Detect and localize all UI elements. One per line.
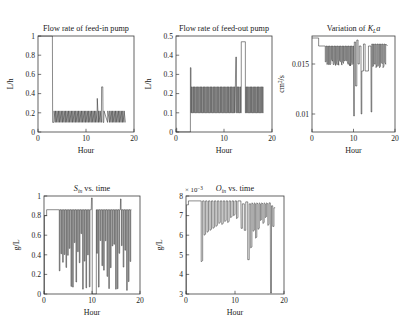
feed-in-pump-series xyxy=(38,36,125,122)
oin-vs-time-xtick-label: 0 xyxy=(184,296,188,305)
feed-out-pump-ytick-label: 0.3 xyxy=(164,70,174,79)
kla-variation-ylabel: cm2/s xyxy=(277,75,286,93)
sin-vs-time-xtick-label: 10 xyxy=(88,296,96,305)
feed-out-pump-xlabel: Hour xyxy=(216,146,233,155)
feed-in-pump-title: Flow rate of feed-in pump xyxy=(43,24,129,33)
feed-out-pump-series xyxy=(176,42,263,132)
oin-vs-time-ytick-label: 7 xyxy=(179,211,183,220)
oin-vs-time-xlabel: Hour xyxy=(227,308,244,317)
feed-in-pump-ytick-label: 0.8 xyxy=(26,51,36,60)
oin-vs-time-series xyxy=(186,201,275,294)
feed-out-pump-ylabel: L/h xyxy=(144,78,153,89)
feed-out-pump-title: Flow rate of feed-out pump xyxy=(179,24,269,33)
oin-vs-time-ylabel: g/L xyxy=(155,239,164,250)
feed-in-pump-ytick-label: 0.2 xyxy=(26,109,36,118)
sin-vs-time-xlabel: Hour xyxy=(84,308,101,317)
oin-vs-time-ytick-label: 6 xyxy=(179,231,183,240)
feed-in-pump-ytick-label: 0.6 xyxy=(26,70,36,79)
feed-in-pump-xtick-label: 10 xyxy=(82,134,90,143)
sin-vs-time-ytick-label: 1 xyxy=(37,192,41,201)
feed-in-pump-xtick-label: 20 xyxy=(130,134,138,143)
sin-vs-time-ylabel: g/L xyxy=(12,239,21,250)
feed-out-pump-ytick-label: 0 xyxy=(169,128,173,137)
feed-out-pump-ytick-label: 0.1 xyxy=(164,109,174,118)
oin-vs-time-xtick-label: 20 xyxy=(280,296,288,305)
oin-vs-time-ytick-label: 8 xyxy=(179,192,183,201)
feed-in-pump-ytick-label: 1 xyxy=(31,32,35,41)
feed-out-pump-ytick-label: 0.5 xyxy=(164,32,174,41)
oin-vs-time-ytick-label: 4 xyxy=(179,270,183,279)
sin-vs-time-ytick-label: 0.4 xyxy=(32,251,42,260)
sin-vs-time-ytick-label: 0.2 xyxy=(32,270,42,279)
feed-out-pump-ytick-label: 0.4 xyxy=(164,51,174,60)
sin-vs-time-ytick-label: 0.6 xyxy=(32,231,42,240)
subplot-feed-out-pump: Flow rate of feed-out pump0102000.10.20.… xyxy=(140,14,280,164)
figure-canvas: Flow rate of feed-in pump0102000.20.40.6… xyxy=(0,0,403,331)
sin-vs-time-ytick-label: 0 xyxy=(37,290,41,299)
subplot-kla-variation: Variation of KLa010200.010.015Hourcm2/s xyxy=(272,14,403,164)
feed-in-pump-xlabel: Hour xyxy=(78,146,95,155)
sin-vs-time-xtick-label: 0 xyxy=(42,296,46,305)
kla-variation-xtick-label: 20 xyxy=(391,134,399,143)
kla-variation-ytick-label: 0.015 xyxy=(292,60,309,69)
sin-vs-time-title: Sin vs. time xyxy=(74,184,111,194)
oin-vs-time-ytick-label: 3 xyxy=(179,290,183,299)
feed-in-pump-xtick-label: 0 xyxy=(36,134,40,143)
kla-variation-ytick-label: 0.01 xyxy=(296,110,309,119)
oin-vs-time-ytick-label: 5 xyxy=(179,251,183,260)
oin-vs-time-title: Oin vs. time xyxy=(216,184,255,194)
kla-variation-xtick-label: 10 xyxy=(350,134,358,143)
sin-vs-time-xtick-label: 20 xyxy=(136,296,144,305)
feed-out-pump-ytick-label: 0.2 xyxy=(164,89,174,98)
subplot-oin-vs-time: Oin vs. time01020345678× 10−3Hourg/L xyxy=(152,172,292,328)
feed-out-pump-xtick-label: 0 xyxy=(174,134,178,143)
feed-out-pump-xtick-label: 10 xyxy=(220,134,228,143)
subplot-feed-in-pump: Flow rate of feed-in pump0102000.20.40.6… xyxy=(2,14,142,164)
oin-vs-time-exponent-label: × 10−3 xyxy=(185,185,203,193)
feed-in-pump-ytick-label: 0 xyxy=(31,128,35,137)
feed-in-pump-ylabel: L/h xyxy=(6,78,15,89)
kla-variation-series xyxy=(312,38,388,116)
subplot-sin-vs-time: Sin vs. time0102000.20.40.60.81Hourg/L xyxy=(8,172,148,328)
sin-vs-time-series xyxy=(44,198,131,294)
feed-in-pump-ytick-label: 0.4 xyxy=(26,89,36,98)
kla-variation-title: Variation of KLa xyxy=(327,24,381,34)
oin-vs-time-xtick-label: 10 xyxy=(231,296,239,305)
sin-vs-time-ytick-label: 0.8 xyxy=(32,211,42,220)
kla-variation-xlabel: Hour xyxy=(345,146,362,155)
kla-variation-xtick-label: 0 xyxy=(310,134,314,143)
